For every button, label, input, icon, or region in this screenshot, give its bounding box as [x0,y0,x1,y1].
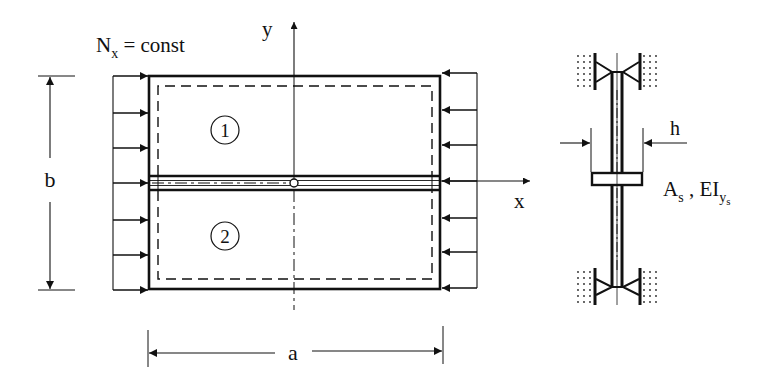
panel-2-label: 2 [220,226,230,247]
y-axis: y [262,17,294,310]
y-axis-label: y [262,17,273,41]
x-axis: x [440,181,530,213]
dimension-b: b [38,76,75,290]
dashed-boundary-upper [158,86,432,175]
dashed-boundary-lower [158,191,432,279]
dimension-a: a [148,326,443,367]
origin-marker [290,179,298,187]
left-load-arrows [113,76,148,290]
panel-1-marker: 1 [211,116,239,144]
stiffened-plate-diagram: y x Nx = const 1 2 [0,0,782,389]
bottom-support [576,268,659,305]
width-b-label: b [45,167,56,192]
length-a-label: a [288,340,298,365]
top-support [576,53,659,90]
thickness-h-label: h [670,117,680,139]
stiffener-properties-label: As , EIys [663,177,730,207]
x-axis-label: x [514,189,525,213]
cross-section: h As , EIys [560,53,730,305]
load-label: Nx = const [96,33,185,61]
panel-1-label: 1 [220,120,230,141]
panel-2-marker: 2 [211,222,239,250]
right-load-arrows [442,73,477,288]
